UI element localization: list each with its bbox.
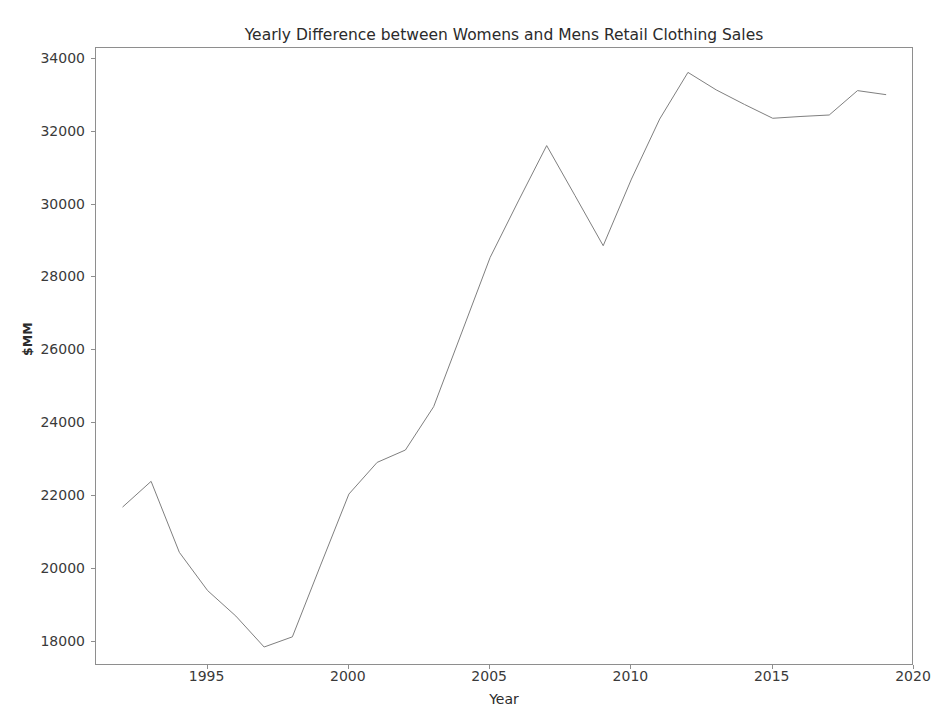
x-axis-label: Year (95, 691, 913, 707)
x-tick-label: 2005 (471, 668, 507, 684)
x-tick-label: 1995 (189, 668, 225, 684)
x-tick-label: 2020 (895, 668, 931, 684)
x-tick-label: 2010 (613, 668, 649, 684)
data-line (123, 72, 886, 647)
plot-area (95, 47, 913, 665)
x-tick-mark (348, 665, 349, 669)
x-tick-mark (772, 665, 773, 669)
x-tick-mark (207, 665, 208, 669)
chart-title: Yearly Difference between Womens and Men… (95, 26, 913, 44)
y-axis-tick-marks (0, 47, 95, 665)
x-tick-label: 2015 (754, 668, 790, 684)
x-tick-mark (630, 665, 631, 669)
line-series-svg (96, 48, 914, 666)
chart-figure: Yearly Difference between Womens and Men… (0, 0, 950, 726)
x-tick-mark (489, 665, 490, 669)
x-tick-label: 2000 (330, 668, 366, 684)
x-tick-mark (913, 665, 914, 669)
